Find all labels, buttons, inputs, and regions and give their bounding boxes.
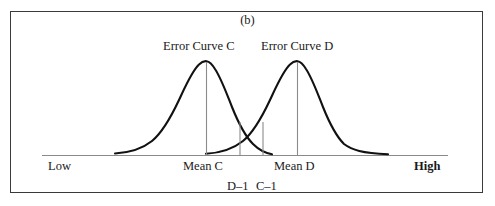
axis-low-label: Low: [48, 160, 71, 173]
threshold-c1-label: C–1: [256, 180, 277, 193]
threshold-d1-label: D–1: [227, 180, 249, 193]
error-curve-d-label: Error Curve D: [261, 40, 333, 53]
mean-c-label: Mean C: [183, 160, 223, 173]
error-curve-c-path: [115, 61, 272, 154]
panel-title: (b): [0, 14, 495, 27]
axis-high-label: High: [414, 160, 440, 173]
mean-d-label: Mean D: [274, 160, 315, 173]
error-curve-c-label: Error Curve C: [163, 40, 235, 53]
figure-page: (b) Error Curve C Error Curve D Low High…: [0, 0, 495, 206]
error-curve-chart: [0, 0, 495, 206]
